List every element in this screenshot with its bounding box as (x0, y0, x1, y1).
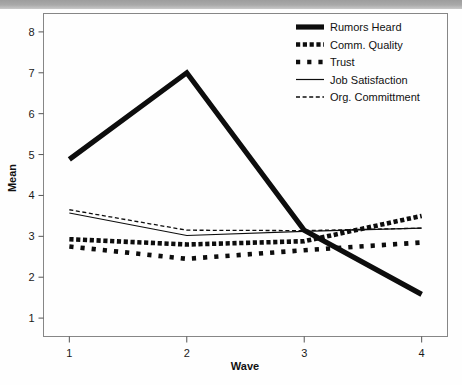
y-tick-label: 7 (28, 67, 34, 79)
plot-frame (44, 14, 448, 337)
series-layer (69, 73, 421, 295)
legend-label: Job Satisfaction (330, 74, 408, 86)
x-axis-title: Wave (231, 360, 259, 372)
chart-svg: 12345678 1234 Mean Wave Rumors HeardComm… (0, 0, 462, 385)
x-tick-label: 1 (66, 347, 72, 359)
y-tick-label: 8 (28, 26, 34, 38)
x-axis: 1234 (66, 337, 424, 359)
y-tick-label: 2 (28, 271, 34, 283)
x-tick-label: 4 (419, 347, 425, 359)
x-tick-label: 2 (184, 347, 190, 359)
y-axis: 12345678 (28, 26, 43, 324)
series-line (69, 213, 421, 235)
legend-label: Rumors Heard (330, 21, 402, 33)
y-tick-label: 1 (28, 312, 34, 324)
legend: Rumors HeardComm. QualityTrustJob Satisf… (296, 21, 420, 103)
series-line (69, 242, 421, 258)
y-tick-label: 6 (28, 108, 34, 120)
y-tick-label: 5 (28, 149, 34, 161)
x-tick-label: 3 (301, 347, 307, 359)
y-axis-title: Mean (6, 164, 18, 192)
legend-label: Comm. Quality (330, 39, 403, 51)
series-line (69, 73, 421, 295)
y-tick-label: 4 (28, 189, 34, 201)
legend-label: Org. Committment (330, 91, 420, 103)
line-chart: 12345678 1234 Mean Wave Rumors HeardComm… (0, 0, 462, 385)
legend-label: Trust (330, 56, 355, 68)
y-tick-label: 3 (28, 230, 34, 242)
